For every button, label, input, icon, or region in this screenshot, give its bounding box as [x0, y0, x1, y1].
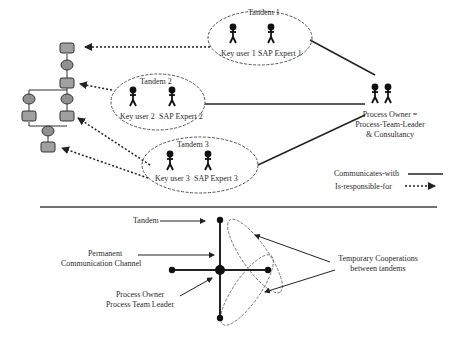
owner-label-line-1: Process Owner [100, 290, 180, 300]
process-flowchart [22, 43, 74, 152]
legend-communicates-label: Communicates-with [334, 169, 399, 179]
tandem-3-member-1: Key user 3 [155, 174, 190, 184]
tandem-network [169, 213, 291, 332]
person-icon [169, 88, 175, 107]
person-icon [205, 152, 211, 171]
tandem-3-member-2: SAP Expert 3 [194, 174, 238, 184]
process-owner-line-3: & Consultancy [350, 130, 430, 140]
channel-label-line-2: Communication Channel [61, 259, 141, 269]
channel-label-line-1: Permanent [55, 249, 155, 259]
person-icon [268, 25, 274, 44]
person-icon [372, 85, 378, 104]
legend-responsible-label: Is-responsible-for [335, 182, 392, 192]
person-icon [167, 152, 173, 171]
tandem-1-member-1: Key user 1 [221, 49, 256, 59]
tandem-1-member-2: SAP Expert 1 [258, 49, 302, 59]
owner-label-line-2: Process Team Leader [100, 300, 180, 310]
person-icon [130, 88, 136, 107]
tandem-label: Tandem [133, 216, 159, 226]
person-icon [230, 25, 236, 44]
temp-coop-label-line-1: Temporary Cooperations [328, 254, 428, 264]
tandem-1-title: Tandem 1 [248, 8, 280, 18]
person-icon [385, 85, 391, 104]
process-owner-line-1: Process Owner = [350, 110, 430, 120]
tandem-2-member-1: Key user 2 [120, 112, 155, 122]
process-owner-line-2: Process-Team-Leader [350, 120, 430, 130]
tandem-2-title: Tandem 2 [140, 77, 172, 87]
tandem-3-title: Tandem 3 [177, 140, 209, 150]
temp-coop-label-line-2: between tandems [328, 264, 428, 274]
tandem-2-member-2: SAP Expert 2 [159, 112, 203, 122]
